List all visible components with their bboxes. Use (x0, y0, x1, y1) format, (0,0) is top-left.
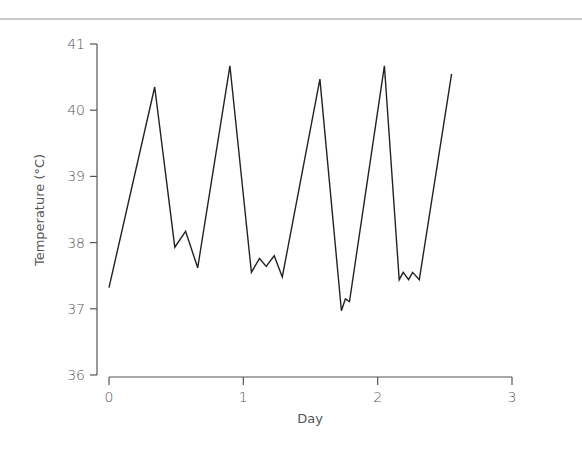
y-tick-label: 39 (67, 168, 85, 184)
x-tick-label: 1 (239, 389, 248, 405)
x-axis-label: Day (297, 411, 323, 426)
x-tick-label: 2 (373, 389, 382, 405)
y-tick-label: 41 (67, 36, 85, 52)
y-tick-label: 37 (67, 301, 85, 317)
temperature-line (109, 66, 452, 311)
y-axis-label: Temperature (°C) (32, 154, 47, 267)
x-axis: 0123 (105, 377, 517, 405)
x-tick-label: 3 (508, 389, 517, 405)
y-axis: 363738394041 (67, 36, 97, 383)
y-tick-label: 36 (67, 367, 85, 383)
y-tick-label: 38 (67, 235, 85, 251)
y-tick-label: 40 (67, 102, 85, 118)
temperature-chart: 363738394041 0123 Temperature (°C) Day (0, 0, 582, 453)
x-tick-label: 0 (105, 389, 114, 405)
